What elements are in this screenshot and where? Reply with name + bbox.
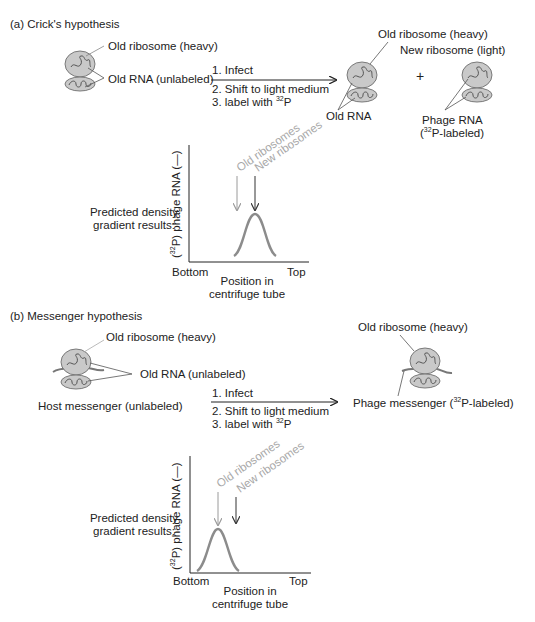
- leader-line: [370, 42, 388, 64]
- predicted-label-line2: gradient results:: [93, 219, 175, 231]
- old-ribosome-result-illustration: [347, 62, 377, 102]
- result-old-ribosome-label-b: Old ribosome (heavy): [358, 321, 468, 333]
- result-old-ribosome-label: Old ribosome (heavy): [378, 28, 488, 40]
- leader-line: [84, 340, 104, 352]
- host-messenger-label: Host messenger (unlabeled): [38, 400, 183, 412]
- predicted-label-line2-b: gradient results:: [93, 525, 175, 537]
- section-a: (a) Crick's hypothesis Old ribosome (hea…: [10, 18, 506, 300]
- new-ribosome-result-illustration: [462, 62, 492, 102]
- step-3: 3. label with 32P: [212, 95, 292, 108]
- leader-line: [86, 46, 104, 56]
- old-rna-label-b: Old RNA (unlabeled): [140, 368, 246, 380]
- chart-b-ylabel: (32P) phage RNA (—): [169, 462, 182, 570]
- predicted-label-line1: Predicted density: [90, 206, 178, 218]
- chart-b-bottom-label: Bottom: [173, 575, 209, 587]
- result-old-rna-label: Old RNA: [326, 110, 372, 122]
- figure-canvas: (a) Crick's hypothesis Old ribosome (hea…: [0, 0, 535, 622]
- chart-a-bottom-label: Bottom: [172, 266, 208, 278]
- phage-rna-label: Phage RNA: [422, 114, 483, 126]
- phage-rna-labeled-note: (32P-labeled): [420, 126, 484, 139]
- old-ribosome-label-b: Old ribosome (heavy): [106, 331, 216, 343]
- step-2-b: 2. Shift to light medium: [212, 405, 329, 417]
- chart-b-xlabel-line1: Position in: [223, 585, 276, 597]
- step-3-b: 3. label with 32P: [212, 417, 292, 430]
- chart-a-ylabel: (32P) phage RNA (—): [169, 150, 182, 258]
- step-2: 2. Shift to light medium: [212, 83, 329, 95]
- step-1: 1. Infect: [212, 64, 254, 76]
- old-ribosome-with-phage-messenger-illustration: [402, 348, 452, 388]
- step-1-b: 1. Infect: [212, 387, 254, 399]
- leader-line: [445, 97, 466, 110]
- chart-a-top-label: Top: [287, 266, 306, 278]
- density-chart-a: (32P) phage RNA (—) Old ribosomes New ri…: [169, 118, 324, 300]
- chart-a-xlabel-line2: centrifuge tube: [209, 288, 285, 300]
- chart-b-peak-curve: [197, 529, 239, 571]
- chart-b-top-label: Top: [289, 575, 308, 587]
- old-rna-label: Old RNA (unlabeled): [108, 73, 214, 85]
- result-new-ribosome-label: New ribosome (light): [400, 44, 506, 56]
- old-ribosome-label: Old ribosome (heavy): [108, 40, 218, 52]
- old-ribosome-with-host-messenger-illustration: [53, 349, 104, 389]
- section-b-title: (b) Messenger hypothesis: [10, 310, 143, 322]
- section-b: (b) Messenger hypothesis Old ribosome (h…: [10, 310, 514, 610]
- leader-line: [400, 335, 414, 351]
- plus-sign: +: [416, 68, 424, 84]
- predicted-label-line1-b: Predicted density: [90, 512, 178, 524]
- leader-line: [88, 374, 132, 381]
- chart-a-peak-curve: [234, 214, 276, 256]
- chart-a-xlabel-line1: Position in: [220, 275, 273, 287]
- leader-line: [398, 371, 404, 396]
- old-ribosome-illustration: [65, 51, 95, 91]
- chart-b-xlabel-line2: centrifuge tube: [212, 598, 288, 610]
- density-chart-b: (32P) phage RNA (—) Old ribosomes New ri…: [169, 437, 311, 610]
- phage-messenger-label: Phage messenger (32P-labeled): [353, 396, 514, 409]
- leader-line: [90, 363, 132, 374]
- section-a-title: (a) Crick's hypothesis: [10, 18, 120, 30]
- leader-line: [338, 98, 355, 110]
